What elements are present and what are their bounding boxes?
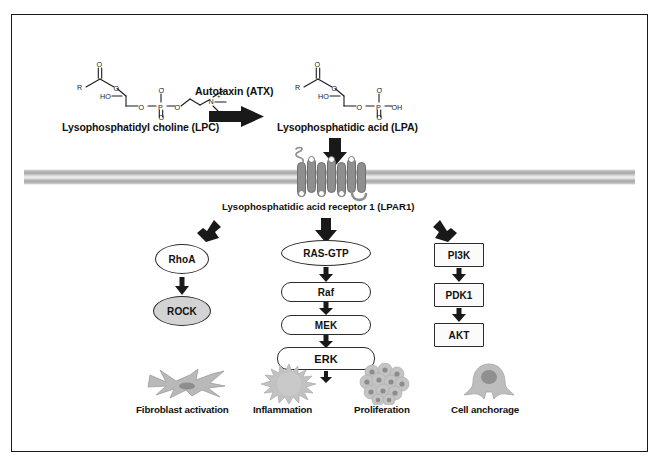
lpa-atom-r: R [295,83,300,92]
lpc-atom-p: P [158,103,163,112]
lpc-label: Lysophosphatidyl choline (LPC) [62,122,219,133]
lpa-structure: R O O HO O O P O OH - [278,62,418,120]
outcome-label-fibroblast: Fibroblast activation [136,405,229,415]
cell-cluster-icon [356,363,414,409]
lpa-atom-o-link: O [357,103,363,112]
helix-cap-top-2 [308,156,315,163]
lpa-atom-ho: HO [318,92,329,101]
lpc-atom-o-link: O [139,103,145,112]
node-pdk1[interactable]: PDK1 [434,283,484,307]
autotaxin-label: Autotaxin (ATX) [195,86,274,97]
fibroblast-cell-icon [146,365,228,409]
lpc-atom-o-double: O [159,113,165,120]
helix-cap-bottom-5 [338,190,345,197]
helix-6 [347,158,356,193]
arrow-raf-to-mek-icon [318,302,334,316]
helix-2 [307,158,316,193]
node-rock[interactable]: ROCK [153,296,211,326]
helix-cap-top-6 [348,156,355,163]
helix-cap-bottom-3 [318,190,325,197]
pathway-figure: R O O HO O O P O O N - + Lysophosphatidy… [0,0,663,469]
branch-arrow-left-icon [196,218,222,244]
lpa-atom-o-ester: O [332,84,338,93]
lpc-atom-o-ether: O [175,103,181,112]
branch-arrow-right-icon [432,218,458,244]
spiky-immune-cell-icon [258,362,320,410]
helix-7 [357,162,366,193]
node-mek[interactable]: MEK [281,315,371,335]
arrow-pdk1-to-akt-icon [451,308,467,323]
helix-cap-bottom-1 [298,190,305,197]
lpa-atom-p: P [376,103,381,112]
lpc-atom-o-carbonyl: O [97,62,103,69]
outcome-label-proliferation: Proliferation [354,405,410,415]
arrow-pi3k-to-pdk1-icon [451,268,467,283]
lpa-charge-minus: - [380,85,382,91]
receptor-n-terminus-icon [290,146,308,168]
outcome-label-anchorage: Cell anchorage [451,405,519,415]
arrow-erk-to-outcomes-icon [319,371,333,384]
lpa-atom-oh: OH [392,103,403,112]
node-pi3k[interactable]: PI3K [434,243,484,267]
lpa-atom-o-double: O [377,113,383,120]
node-rhoa[interactable]: RhoA [155,244,209,274]
outcome-label-inflammation: Inflammation [253,405,312,415]
helix-cap-top-4 [328,156,335,163]
helix-4 [327,158,336,193]
node-raf[interactable]: Raf [281,282,371,302]
arrow-ras-to-raf-icon [318,267,334,283]
lpc-atom-ho: HO [100,92,111,101]
lpc-atom-o-ester: O [114,84,120,93]
node-akt[interactable]: AKT [434,323,484,347]
adherent-cell-icon [461,362,517,408]
lpar1-label: Lysophosphatidic acid receptor 1 (LPAR1) [222,202,414,212]
arrow-rhoa-to-rock-icon [174,277,190,296]
lpc-charge-minus: - [162,85,164,91]
node-ras-gtp[interactable]: RAS-GTP [281,240,371,266]
autotaxin-arrow-icon [207,104,269,130]
lpc-atom-r: R [77,83,82,92]
lpa-label: Lysophosphatidic acid (LPA) [277,122,418,133]
lpa-atom-o-carbonyl: O [315,62,321,69]
